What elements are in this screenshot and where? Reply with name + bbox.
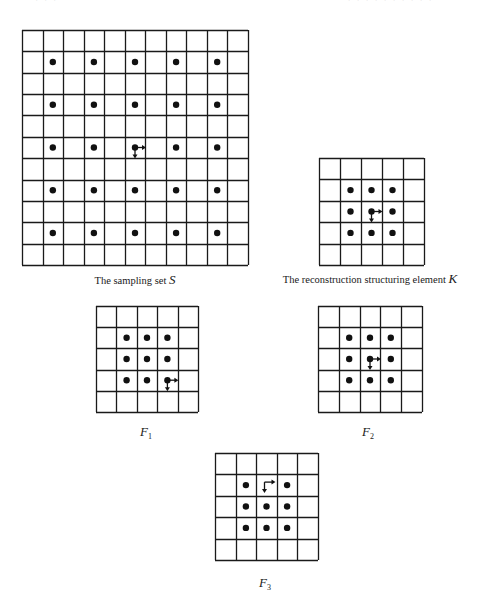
sampling-set-grid (22, 30, 248, 265)
sample-dot (173, 187, 179, 193)
sample-dot (91, 59, 97, 65)
structuring-element-k-grid (319, 158, 424, 265)
f1-grid (96, 306, 198, 412)
f1-caption: F1 (140, 424, 152, 441)
sample-dot (173, 59, 179, 65)
structuring-element-caption: The reconstruction structuring element K (283, 271, 457, 287)
sample-dot (346, 335, 352, 341)
f3-caption: F3 (259, 575, 271, 592)
sample-dot (132, 59, 138, 65)
sample-dot (50, 230, 56, 236)
sample-dot (144, 377, 150, 383)
f2-caption: F2 (362, 424, 374, 441)
sample-dot (388, 377, 394, 383)
sample-dot (144, 335, 150, 341)
sample-dot (214, 59, 220, 65)
sample-dot (123, 335, 129, 341)
sample-dot (346, 377, 352, 383)
sample-dot (389, 187, 395, 193)
f3-grid (215, 453, 318, 560)
sample-dot (346, 356, 352, 362)
sample-dot (368, 187, 374, 193)
sample-dot (132, 102, 138, 108)
sample-dot (347, 230, 353, 236)
sample-dot (263, 503, 269, 509)
sample-dot (123, 377, 129, 383)
sample-dot (50, 144, 56, 150)
sample-dot (263, 525, 269, 531)
arrow-down-icon (368, 366, 373, 370)
sample-dot (50, 59, 56, 65)
sample-dot (347, 187, 353, 193)
sample-dot (243, 482, 249, 488)
sampling-set-caption: The sampling set S (95, 272, 176, 288)
running-header-fragment: · · · · · · · · · · (348, 0, 433, 7)
sample-dot (164, 356, 170, 362)
sample-dot (91, 144, 97, 150)
sample-dot (243, 503, 249, 509)
sample-dot (173, 102, 179, 108)
sample-dot (214, 230, 220, 236)
sample-dot (91, 230, 97, 236)
sample-dot (388, 335, 394, 341)
sample-dot (50, 187, 56, 193)
sample-dot (91, 187, 97, 193)
sample-dot (243, 525, 249, 531)
sample-dot (367, 335, 373, 341)
arrow-right-icon (174, 378, 178, 383)
sample-dot (284, 525, 290, 531)
sample-dot (123, 356, 129, 362)
sample-dot (173, 230, 179, 236)
f2-grid (318, 306, 422, 412)
sample-dot (132, 230, 138, 236)
sample-dot (368, 230, 374, 236)
sample-dot (214, 144, 220, 150)
sample-dot (214, 187, 220, 193)
sample-dot (164, 335, 170, 341)
arrow-down-icon (262, 489, 267, 493)
sample-dot (132, 187, 138, 193)
sample-dot (284, 503, 290, 509)
sample-dot (347, 208, 353, 214)
sample-dot (284, 482, 290, 488)
sample-dot (388, 356, 394, 362)
sample-dot (144, 356, 150, 362)
sample-dot (214, 102, 220, 108)
sample-dot (91, 102, 97, 108)
page-number-fragment: · · · (35, 0, 57, 7)
arrow-down-icon (165, 387, 170, 391)
sample-dot (389, 208, 395, 214)
sample-dot (367, 377, 373, 383)
arrow-right-icon (272, 480, 276, 485)
sample-dot (50, 102, 56, 108)
sample-dot (389, 230, 395, 236)
sample-dot (173, 144, 179, 150)
